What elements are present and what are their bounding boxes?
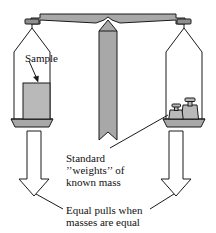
standard-weight-large: [182, 98, 199, 119]
equal-pulls-leader-right: [150, 194, 174, 209]
left-pivot-knob: [25, 19, 39, 24]
equal-pulls-line-1: Equal pulls when: [66, 204, 143, 216]
weight-small-body: [169, 110, 183, 119]
equal-pulls-line-2: masses are equal: [66, 216, 140, 228]
pointer-body: [99, 20, 117, 140]
sample-label: Sample: [25, 52, 58, 64]
sample-leader-arrow: [29, 61, 39, 82]
standard-caption-line-2: ’’weights’’ of: [66, 164, 125, 176]
equal-pulls-caption: Equal pulls when masses are equal: [66, 204, 143, 228]
standard-weight-small: [169, 104, 183, 119]
right-pivot-knob: [177, 19, 191, 24]
standard-weights-leader-line: [110, 115, 168, 148]
standard-weights-caption: Standard ’’weights’’ of known mass: [66, 152, 125, 188]
center-pointer: [99, 20, 117, 140]
standard-caption-line-3: known mass: [66, 176, 121, 188]
left-pan-tray: [11, 119, 53, 127]
right-pan: [163, 119, 205, 127]
weight-large-body: [182, 105, 199, 119]
diagram-canvas: Sample Standard ’’weights’’ of known mas…: [0, 0, 216, 233]
left-downward-force-arrow: [19, 131, 49, 196]
left-pan: [11, 119, 53, 127]
weight-large-knob: [185, 98, 195, 102]
standard-caption-line-1: Standard: [66, 152, 106, 164]
weight-small-knob: [172, 104, 181, 107]
sample-block: [23, 83, 50, 119]
equal-pulls-leader-left: [36, 194, 63, 209]
right-downward-force-arrow: [161, 131, 191, 196]
balance-diagram: Sample Standard ’’weights’’ of known mas…: [0, 0, 216, 233]
right-pan-tray: [163, 119, 205, 127]
